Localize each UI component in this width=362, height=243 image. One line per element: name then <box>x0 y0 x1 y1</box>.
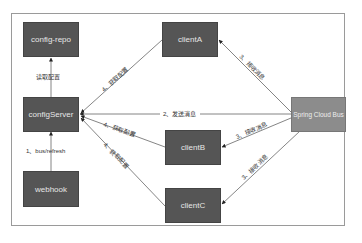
edge-label-fetch-b: 4、获取配置 <box>102 120 136 139</box>
node-label: clientB <box>181 143 205 152</box>
node-client-a: clientA <box>162 22 218 57</box>
edge-label-fetch-c: 4、获取配置 <box>102 141 131 171</box>
node-spring-cloud-bus: Spring Cloud Bus <box>291 97 346 132</box>
edge-label-fetch-a: 4、获取配置 <box>100 65 130 93</box>
edge-label-bus-refresh: 1、bus/refresh <box>26 148 65 154</box>
edge-label-receive-a: 3、接收消息 <box>238 53 267 82</box>
node-label: Spring Cloud Bus <box>293 111 344 118</box>
node-label: configServer <box>29 110 74 119</box>
node-label: config-repo <box>31 35 71 44</box>
node-config-server: configServer <box>23 97 79 132</box>
node-label: clientA <box>178 35 202 44</box>
node-label: webhook <box>35 185 67 194</box>
edge-label-send-message: 2、发送消息 <box>163 110 196 118</box>
edge-receive-a <box>219 40 291 112</box>
node-client-b: clientB <box>165 130 221 165</box>
edge-label-read-config: 读取配置 <box>36 73 60 81</box>
edge-label-receive-b: 3、接收消息 <box>235 120 269 140</box>
edge-receive-b <box>222 118 291 147</box>
node-config-repo: config-repo <box>23 22 79 57</box>
edge-label-receive-c: 3、接收消息 <box>240 153 270 182</box>
node-label: clientC <box>181 201 205 210</box>
node-webhook: webhook <box>23 171 79 207</box>
node-client-c: clientC <box>165 188 221 223</box>
